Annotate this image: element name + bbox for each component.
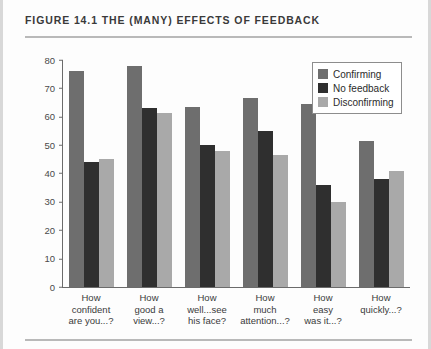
y-axis-tick: 60 (44, 112, 63, 122)
bar (389, 171, 404, 287)
x-axis-label-line: are you...? (63, 315, 119, 327)
legend-item: Disconfirming (318, 95, 394, 109)
bar-group (236, 60, 294, 287)
x-axis-label-line: easy (295, 304, 351, 316)
bar (69, 71, 84, 287)
figure-title: FIGURE 14.1 THE (MANY) EFFECTS OF FEEDBA… (25, 14, 320, 26)
bar (258, 131, 273, 287)
x-axis-label: Howmuchattention...? (236, 292, 294, 327)
bar (243, 98, 258, 287)
legend-item: Confirming (318, 67, 394, 81)
x-axis-label-line: How (121, 292, 177, 304)
legend-swatch (318, 83, 328, 93)
x-axis-label-line: How (237, 292, 293, 304)
bar (301, 104, 316, 287)
x-axis-label: Howgood aview...? (120, 292, 178, 327)
y-axis-tick-label: 60 (44, 111, 55, 122)
bar-group (179, 60, 237, 287)
x-axis-label-line: view...? (121, 315, 177, 327)
x-axis-label-line: quickly...? (353, 304, 409, 316)
x-axis-label-line: good a (121, 304, 177, 316)
figure-page: FIGURE 14.1 THE (MANY) EFFECTS OF FEEDBA… (0, 0, 431, 349)
bar (374, 179, 389, 287)
y-axis-tick: 10 (44, 254, 63, 264)
bar (157, 113, 172, 288)
legend-swatch (318, 97, 328, 107)
bar (99, 159, 114, 287)
x-axis-label-line: How (353, 292, 409, 304)
legend-label: No feedback (333, 83, 389, 94)
y-axis-tick: 80 (44, 55, 63, 65)
x-axis-label-line: confident (63, 304, 119, 316)
y-axis-tick: 50 (44, 140, 63, 150)
bar-group (63, 60, 121, 287)
x-axis-label-line: much (237, 304, 293, 316)
y-axis-tick-label: 0 (50, 281, 55, 292)
x-axis-label: Howeasywas it...? (294, 292, 352, 327)
legend-label: Confirming (333, 69, 381, 80)
bar (359, 141, 374, 287)
x-axis-label: Howquickly...? (352, 292, 410, 327)
bar (331, 202, 346, 287)
x-axis-labels: Howconfidentare you...?Howgood aview...?… (62, 292, 410, 327)
x-axis-label-line: How (295, 292, 351, 304)
title-divider (25, 36, 412, 38)
bar (185, 107, 200, 287)
y-axis-tick-label: 20 (44, 225, 55, 236)
chart-legend: ConfirmingNo feedbackDisconfirming (312, 62, 402, 114)
x-axis-label-line: attention...? (237, 315, 293, 327)
y-axis-tick: 20 (44, 226, 63, 236)
x-axis-label-line: was it...? (295, 315, 351, 327)
y-axis-tick-label: 10 (44, 253, 55, 264)
x-axis-label-line: How (63, 292, 119, 304)
y-axis-tick: 40 (44, 169, 63, 179)
y-axis-tick-label: 80 (44, 54, 55, 65)
y-axis-tick: 30 (44, 197, 63, 207)
legend-item: No feedback (318, 81, 394, 95)
bottom-divider (25, 339, 412, 341)
x-axis-label: Howconfidentare you...? (62, 292, 120, 327)
y-axis-tick: 70 (44, 84, 63, 94)
x-axis-label-line: his face? (179, 315, 235, 327)
legend-label: Disconfirming (333, 97, 394, 108)
bar-group (121, 60, 179, 287)
y-axis-tick-label: 50 (44, 139, 55, 150)
legend-swatch (318, 69, 328, 79)
bar (316, 185, 331, 287)
x-axis-label: Howwell...seehis face? (178, 292, 236, 327)
y-axis-tick: 0 (50, 282, 63, 292)
bar (273, 155, 288, 287)
bar (215, 151, 230, 287)
bar (127, 66, 142, 287)
y-axis-tick-label: 30 (44, 196, 55, 207)
bar-chart: 01020304050607080 Howconfidentare you...… (22, 52, 418, 334)
x-axis-label-line: How (179, 292, 235, 304)
bar (142, 108, 157, 287)
bar (84, 162, 99, 287)
bar (200, 145, 215, 287)
x-axis-label-line: well...see (179, 304, 235, 316)
y-axis-tick-label: 40 (44, 168, 55, 179)
y-axis-tick-label: 70 (44, 83, 55, 94)
